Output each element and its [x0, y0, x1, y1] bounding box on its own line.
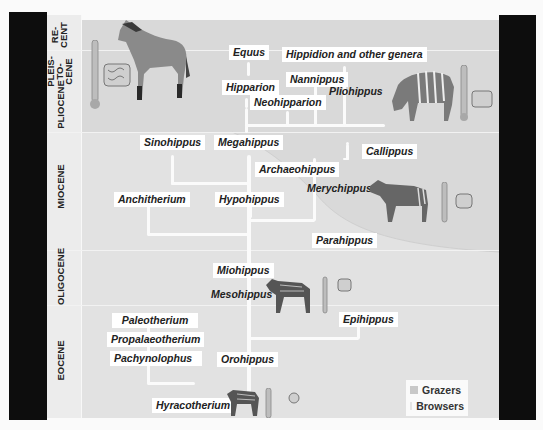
genus-hippidion: Hippidion and other genera [282, 47, 427, 62]
left-frame-bar [9, 12, 47, 420]
legend-label: Grazers [422, 384, 461, 396]
anchitherium-branch [147, 205, 150, 235]
equus-branch [247, 62, 250, 76]
grazers-swatch-icon [410, 386, 418, 394]
legend-label: Browsers [416, 400, 464, 412]
hyracotherium-bone-and-tooth [264, 388, 304, 418]
right-frame-bar [499, 15, 536, 420]
epoch-label-eocene: EOCENE [56, 331, 65, 391]
pliohippus-zebra-illustration [388, 65, 458, 127]
genus-megahippus: Megahippus [214, 135, 283, 150]
genus-pachynolophus: Pachynolophus [110, 351, 202, 366]
genus-paleotherium: Paleotherium [112, 313, 198, 328]
divider-pliocene-miocene [47, 132, 499, 133]
hipparion-tick [245, 116, 247, 126]
legend-item-grazers: Grazers [410, 382, 464, 398]
genus-anchitherium: Anchitherium [114, 192, 190, 207]
epoch-label-oligocene: OLIGOCENE [56, 242, 65, 312]
epoch-label-miocene: MIOCENE [56, 157, 65, 217]
genus-propalaeotherium: Propalaeotherium [107, 332, 204, 347]
genus-parahippus: Parahippus [312, 233, 377, 248]
genus-merychippus: Merychippus [303, 181, 376, 196]
merychippus-bone-and-tooth [440, 182, 480, 224]
callippus-elbow [343, 158, 349, 160]
callippus-tip [346, 142, 349, 145]
genus-callippus: Callippus [362, 144, 417, 159]
merychippus-illustration [366, 178, 430, 224]
genus-equus: Equus [229, 45, 269, 60]
genus-orohippus: Orohippus [217, 352, 278, 367]
sinohippus-connector [171, 182, 249, 185]
browsers-swatch-icon [410, 402, 412, 410]
epoch-label-recent: RE- CENT [50, 20, 68, 50]
divider-miocene-oligocene [47, 250, 499, 251]
mesohippus-bone-and-tooth [320, 275, 356, 315]
pachynolophus-connector [147, 382, 195, 385]
genus-neohipparion: Neohipparion [250, 95, 326, 110]
epihippus-branch [357, 325, 360, 339]
pliohippus-bone-and-tooth [458, 65, 498, 123]
genus-hyracotherium: Hyracotherium [152, 398, 234, 413]
epoch-line: CENT [59, 20, 68, 50]
genus-pliohippus: Pliohippus [325, 84, 387, 99]
legend-item-browsers: Browsers [410, 398, 464, 414]
hyracotherium-illustration [225, 388, 261, 418]
anchitherium-connector [147, 233, 249, 236]
genus-hipparion: Hipparion [222, 80, 279, 95]
equus-bone-and-tooth [88, 40, 144, 112]
genus-sinohippus: Sinohippus [140, 135, 205, 150]
neohipparion-tick [286, 111, 289, 126]
sinohippus-branch [171, 155, 174, 185]
pliocene-stem-upper [245, 98, 248, 108]
legend: Grazers Browsers [406, 380, 468, 416]
mesohippus-illustration [264, 275, 312, 315]
genus-hypohippus: Hypohippus [215, 192, 284, 207]
epihippus-connector [249, 337, 359, 340]
genus-archaeohippus: Archaeohippus [255, 162, 339, 177]
archaeohippus-connector [249, 219, 315, 222]
epoch-label-pliocene: PLIOCENE [56, 75, 65, 135]
